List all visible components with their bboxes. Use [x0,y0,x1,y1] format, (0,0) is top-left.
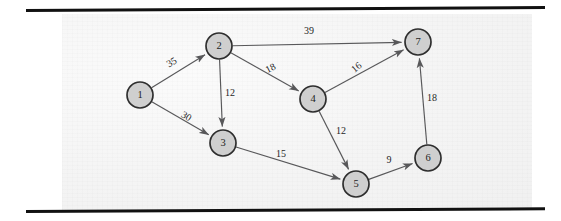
edge-4-to-7 [325,50,404,93]
node-6: 6 [415,145,441,171]
edge-4-to-5 [319,111,348,169]
edge-weight-2-7: 39 [304,25,314,36]
edge-5-to-6 [369,164,413,180]
node-label-5: 5 [353,178,358,189]
edge-2-to-3 [220,60,223,127]
node-label-6: 6 [425,152,430,163]
edge-weight-2-3: 12 [225,87,235,98]
edge-1-to-2 [152,55,206,88]
edge-2-to-4 [231,53,299,91]
edge-3-to-5 [236,147,340,179]
node-label-7: 7 [415,36,420,47]
edge-weight-1-2: 35 [164,55,178,70]
nodes-layer: 1234567 [127,29,441,197]
edge-weight-6-7: 18 [427,92,437,103]
edge-weight-3-5: 15 [276,148,286,159]
edge-weight-4-5: 12 [336,125,346,136]
edge-weight-1-3: 30 [180,109,194,124]
figure-page: 3530391218161215918 1234567 [0,0,561,221]
node-3: 3 [210,130,236,156]
graph-diagram: 3530391218161215918 1234567 [0,0,561,221]
edge-weight-5-6: 9 [387,154,392,165]
node-4: 4 [300,86,326,112]
node-label-4: 4 [310,93,316,104]
node-2: 2 [206,33,232,59]
node-5: 5 [343,171,369,197]
node-1: 1 [127,82,153,108]
edge-2-to-7 [233,42,402,45]
node-label-2: 2 [216,40,221,51]
node-label-3: 3 [220,137,225,148]
node-7: 7 [405,29,431,55]
edge-6-to-7 [419,58,426,144]
node-label-1: 1 [137,89,142,100]
edge-weight-2-4: 18 [264,61,278,75]
